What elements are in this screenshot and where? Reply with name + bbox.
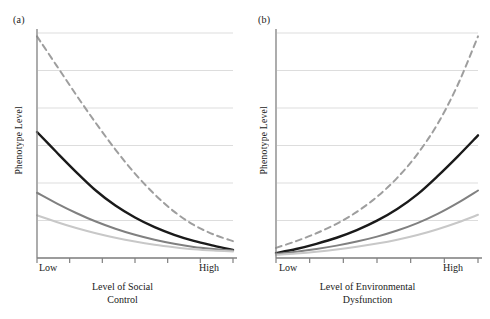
series-dashed-gray (37, 36, 233, 241)
panel-b: (b) Phenotype Level Low High Level of En… (245, 0, 490, 319)
panel-a-x-axis-label-line1: Level of Social (92, 281, 153, 292)
figure-root: (a) Phenotype Level Low High Level of So… (0, 0, 490, 319)
panel-a-x-axis-label: Level of Social Control (0, 280, 245, 306)
panel-a-xtick-low: Low (39, 262, 57, 273)
panel-b-x-axis-label-line1: Level of Environmental (320, 281, 416, 292)
series-solid-black (37, 132, 233, 250)
series-solid-black (276, 135, 478, 253)
panel-b-x-axis-label-line2: Dysfunction (245, 293, 490, 306)
panel-b-x-axis-label: Level of Environmental Dysfunction (245, 280, 490, 306)
panel-a: (a) Phenotype Level Low High Level of So… (0, 0, 245, 319)
panel-a-x-axis-label-line2: Control (0, 293, 245, 306)
panel-b-xtick-low: Low (279, 262, 297, 273)
series-dashed-gray (276, 36, 478, 248)
panel-a-xtick-high: High (199, 262, 219, 273)
panel-b-xtick-high: High (443, 262, 463, 273)
